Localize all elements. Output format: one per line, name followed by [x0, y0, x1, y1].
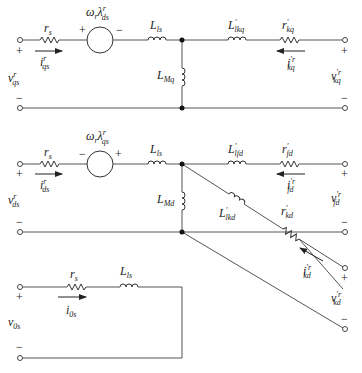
- terminal-d-minus: [18, 230, 23, 235]
- terminal-d-plus: [18, 162, 23, 167]
- label-ikd: i′rkd: [303, 263, 312, 280]
- plus-sign: +: [341, 167, 348, 181]
- label-vqs: vrqs: [8, 70, 19, 87]
- label-rs-q: rs: [44, 21, 52, 37]
- label-i0s: i0s: [66, 303, 76, 319]
- terminal-q-minus: [18, 106, 23, 111]
- stator-resistor-0: [67, 284, 86, 290]
- label-ifd: i′rfd: [287, 177, 296, 194]
- terminal-fd-plus: [343, 162, 348, 167]
- label-rfd: r′fd: [282, 142, 294, 158]
- minus-sign: −: [341, 91, 348, 105]
- label-vds: vrds: [8, 192, 19, 209]
- leakage-inductor-d: [148, 161, 166, 164]
- label-iqs: irqs: [40, 54, 49, 71]
- terminal-0-minus: [18, 356, 23, 361]
- minus-sign: −: [16, 215, 23, 229]
- stator-resistor-d: [40, 161, 59, 167]
- damper-leakage-inductor: [229, 191, 246, 203]
- equivalent-circuit-diagram: rs + − irqs vrqs + − ωrλrds Lls LMq L′lk…: [0, 0, 362, 373]
- label-lls-0: Lls: [119, 264, 132, 280]
- node-dot: [180, 230, 185, 235]
- label-lls-q: Lls: [149, 18, 162, 34]
- damper-resistor: [281, 226, 300, 241]
- minus-sign: −: [16, 91, 23, 105]
- label-rs-0: rs: [70, 267, 78, 283]
- d-axis-circuit: rs + − irds vrds − + ωrλrqs Lls LMd L′lf…: [8, 128, 348, 332]
- label-rs-d: rs: [44, 145, 52, 161]
- label-llkd: L′lkd: [218, 206, 236, 222]
- label-llfd: L′lfd: [227, 142, 244, 158]
- terminal-kq-minus: [343, 106, 348, 111]
- leakage-inductor-0: [120, 284, 138, 287]
- source-sign-right: −: [116, 23, 123, 37]
- plus-sign: +: [16, 44, 23, 58]
- node-dot: [180, 162, 185, 167]
- label-llkq: L′lkq: [227, 18, 244, 34]
- current-arrow-kd: [300, 248, 323, 261]
- label-ikq: i′rkq: [287, 55, 296, 72]
- field-leakage-inductor: [228, 161, 246, 164]
- source-sign-right: +: [115, 147, 122, 161]
- label-lmd: LMd: [156, 192, 175, 208]
- magnetizing-inductor-q: [182, 68, 185, 86]
- minus-sign: −: [341, 312, 348, 326]
- terminal-0-plus: [18, 285, 23, 290]
- label-vkd: v′rkd: [331, 290, 342, 307]
- zero-sequence-circuit: rs Lls + i0s v0s −: [8, 264, 182, 361]
- field-resistor: [280, 161, 299, 167]
- q-axis-circuit: rs + − irqs vrqs + − ωrλrds Lls LMq L′lk…: [8, 4, 348, 111]
- terminal-q-plus: [18, 38, 23, 43]
- node-dot: [180, 38, 185, 43]
- terminal-kq-plus: [343, 38, 348, 43]
- speed-voltage-source-q: [87, 27, 113, 53]
- label-vfd: v′rfd: [331, 190, 342, 207]
- minus-sign: −: [341, 215, 348, 229]
- leakage-inductor-q: [148, 37, 166, 40]
- magnetizing-inductor-d: [182, 192, 185, 210]
- label-vkq: v′rkq: [331, 68, 342, 85]
- terminal-kd-plus: [343, 266, 348, 271]
- label-ids: irds: [40, 177, 49, 194]
- terminal-fd-minus: [343, 230, 348, 235]
- stator-resistor-q: [40, 37, 59, 43]
- plus-sign: +: [341, 271, 348, 285]
- speed-voltage-source-d: [87, 151, 113, 177]
- label-lls-d: Lls: [149, 142, 162, 158]
- rotor-resistor-kq: [280, 37, 299, 43]
- label-v0s: v0s: [8, 315, 20, 331]
- rotor-leakage-inductor-kq: [228, 37, 246, 40]
- label-rkd: r′kd: [281, 204, 294, 220]
- minus-sign: −: [16, 340, 23, 354]
- label-rkq: r′kq: [282, 18, 294, 34]
- plus-sign: +: [16, 290, 23, 304]
- plus-sign: +: [341, 44, 348, 58]
- label-source-d: ωrλrqs: [86, 128, 109, 146]
- label-lmq: LMq: [156, 68, 174, 84]
- terminal-kd-minus: [343, 327, 348, 332]
- source-sign-left: −: [79, 147, 86, 161]
- source-sign-left: +: [79, 23, 86, 37]
- label-source-q: ωrλrds: [86, 4, 109, 22]
- node-dot: [180, 106, 185, 111]
- plus-sign: +: [16, 167, 23, 181]
